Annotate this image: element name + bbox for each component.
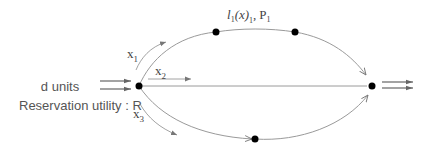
- top-node-2: [292, 29, 299, 36]
- flow-label-x2: x2: [155, 63, 166, 81]
- flow-label-x1: x1: [127, 46, 138, 64]
- bottom-node: [252, 136, 259, 143]
- output-double-arrow: [382, 82, 413, 88]
- top-link-segment-3: [295, 32, 366, 75]
- demand-label: d units: [41, 79, 80, 94]
- bottom-link-segment-1: [139, 86, 252, 139]
- bottom-link-segment-2: [255, 95, 368, 139]
- flow-arrow-x3: [140, 104, 177, 135]
- source-node: [136, 83, 143, 90]
- top-link-segment-2: [216, 29, 295, 32]
- top-link-segment-1: [139, 32, 216, 86]
- top-node-1: [213, 29, 220, 36]
- sink-node: [369, 83, 376, 90]
- top-link-label: l1(x)1,P1: [227, 7, 271, 25]
- network-diagram: d units Reservation utility : R x1 x2 x3…: [0, 0, 432, 152]
- reservation-utility-label: Reservation utility : R: [19, 98, 142, 113]
- input-double-arrow: [100, 81, 131, 89]
